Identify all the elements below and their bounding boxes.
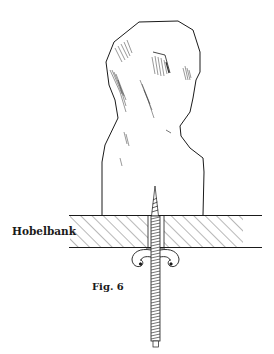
bust-carving (102, 21, 204, 215)
screw-spike (152, 186, 159, 216)
figure-illustration (0, 0, 274, 354)
workbench-section (69, 216, 262, 248)
threaded-rod (151, 216, 160, 347)
bench-label: Hobelbank (12, 225, 76, 237)
figure-caption: Fig. 6 (92, 281, 124, 292)
bust-shading (110, 40, 191, 166)
